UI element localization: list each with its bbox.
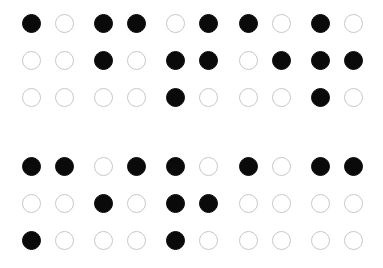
flat-dot-icon — [127, 88, 146, 107]
raised-dot-icon — [55, 157, 74, 176]
raised-dot-icon — [311, 88, 330, 107]
raised-dot-icon — [166, 88, 185, 107]
flat-dot-icon — [22, 88, 41, 107]
raised-dot-icon — [94, 14, 113, 33]
raised-dot-icon — [127, 157, 146, 176]
raised-dot-icon — [166, 51, 185, 70]
raised-dot-icon — [166, 231, 185, 250]
flat-dot-icon — [94, 88, 113, 107]
flat-dot-icon — [239, 51, 258, 70]
flat-dot-icon — [239, 88, 258, 107]
flat-dot-icon — [127, 194, 146, 213]
flat-dot-icon — [127, 51, 146, 70]
raised-dot-icon — [344, 157, 363, 176]
raised-dot-icon — [199, 51, 218, 70]
flat-dot-icon — [22, 194, 41, 213]
raised-dot-icon — [199, 194, 218, 213]
raised-dot-icon — [22, 231, 41, 250]
flat-dot-icon — [344, 231, 363, 250]
raised-dot-icon — [166, 194, 185, 213]
raised-dot-icon — [94, 51, 113, 70]
flat-dot-icon — [55, 231, 74, 250]
flat-dot-icon — [344, 88, 363, 107]
raised-dot-icon — [127, 14, 146, 33]
raised-dot-icon — [239, 157, 258, 176]
raised-dot-icon — [344, 51, 363, 70]
raised-dot-icon — [199, 14, 218, 33]
raised-dot-icon — [311, 51, 330, 70]
flat-dot-icon — [272, 231, 291, 250]
flat-dot-icon — [344, 194, 363, 213]
raised-dot-icon — [311, 14, 330, 33]
flat-dot-icon — [55, 194, 74, 213]
flat-dot-icon — [199, 88, 218, 107]
flat-dot-icon — [127, 231, 146, 250]
flat-dot-icon — [199, 231, 218, 250]
flat-dot-icon — [272, 88, 291, 107]
flat-dot-icon — [239, 194, 258, 213]
raised-dot-icon — [239, 14, 258, 33]
flat-dot-icon — [22, 51, 41, 70]
flat-dot-icon — [272, 157, 291, 176]
raised-dot-icon — [311, 157, 330, 176]
flat-dot-icon — [344, 14, 363, 33]
flat-dot-icon — [55, 51, 74, 70]
flat-dot-icon — [55, 88, 74, 107]
flat-dot-icon — [94, 231, 113, 250]
raised-dot-icon — [272, 51, 291, 70]
flat-dot-icon — [272, 14, 291, 33]
flat-dot-icon — [239, 231, 258, 250]
raised-dot-icon — [22, 157, 41, 176]
flat-dot-icon — [311, 194, 330, 213]
raised-dot-icon — [22, 14, 41, 33]
raised-dot-icon — [166, 157, 185, 176]
flat-dot-icon — [166, 14, 185, 33]
flat-dot-icon — [55, 14, 74, 33]
flat-dot-icon — [311, 231, 330, 250]
flat-dot-icon — [94, 157, 113, 176]
flat-dot-icon — [272, 194, 291, 213]
raised-dot-icon — [94, 194, 113, 213]
flat-dot-icon — [199, 157, 218, 176]
